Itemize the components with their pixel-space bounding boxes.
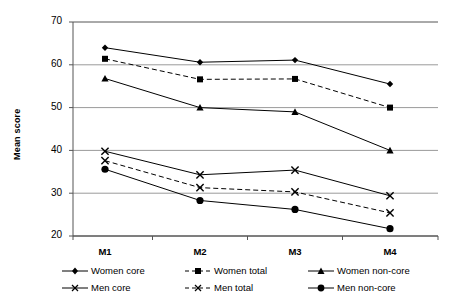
plot-area [0, 0, 459, 305]
legend-item-men-total: Men total [185, 283, 253, 293]
data-point-women-total [197, 76, 203, 82]
data-point-men-non-core [291, 206, 298, 213]
cross-marker [185, 283, 211, 293]
data-point-men-non-core [101, 166, 108, 173]
square-marker [185, 266, 211, 276]
legend-label-men-core: Men core [91, 283, 131, 293]
series-line-women-core [105, 48, 390, 84]
legend-item-women-core: Women core [62, 266, 145, 276]
legend-item-women-non-core: Women non-core [308, 266, 410, 276]
diamond-marker [62, 266, 88, 276]
series-line-women-total [105, 59, 390, 108]
data-point-women-core [292, 57, 298, 63]
data-point-women-non-core [101, 75, 108, 82]
legend-item-women-total: Women total [185, 266, 267, 276]
data-point-women-core [387, 81, 393, 87]
triangle-marker [308, 266, 334, 276]
chart-figure: Mean score 70 60 50 40 30 20 M1 M2 M3 M4… [0, 0, 459, 305]
series-line-women-non-core [105, 78, 390, 150]
legend-label-women-total: Women total [214, 266, 267, 276]
data-point-women-total [102, 56, 108, 62]
data-point-men-core [101, 148, 108, 155]
legend-item-men-core: Men core [62, 283, 131, 293]
series-line-men-core [105, 151, 390, 196]
legend-item-men-non-core: Men non-core [308, 283, 396, 293]
data-point-men-total [386, 209, 393, 216]
legend-label-women-core: Women core [91, 266, 145, 276]
circle-marker [308, 283, 334, 293]
data-point-men-total [291, 188, 298, 195]
data-point-women-total [292, 76, 298, 82]
data-point-men-total [101, 157, 108, 164]
legend-label-men-total: Men total [214, 283, 253, 293]
data-point-women-core [102, 44, 108, 50]
data-point-men-non-core [196, 197, 203, 204]
data-point-men-total [196, 184, 203, 191]
series-line-men-non-core [105, 169, 390, 228]
cross-marker [62, 283, 88, 293]
legend-label-men-non-core: Men non-core [337, 283, 396, 293]
data-point-men-non-core [386, 225, 393, 232]
data-point-women-total [387, 105, 393, 111]
legend-label-women-non-core: Women non-core [337, 266, 410, 276]
